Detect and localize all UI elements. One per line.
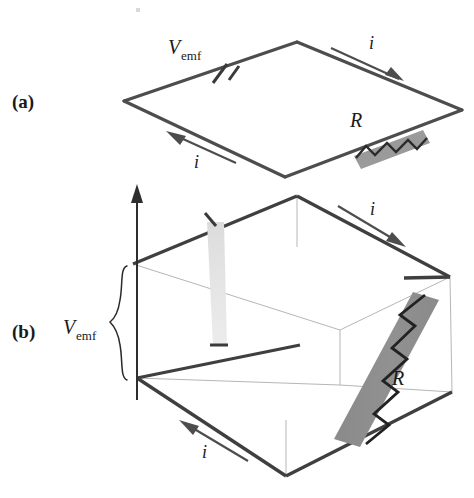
panel-b-label: (b) [12, 321, 35, 343]
box-front-wires [137, 345, 452, 476]
axis-arrow-head [131, 184, 143, 203]
figure-root: (a) V emf [0, 0, 474, 498]
emf-label-subscript: emf [76, 328, 97, 343]
emf-battery-symbol-a [213, 64, 239, 83]
current-label: i [369, 33, 374, 53]
hidden-edge-right-vertical [450, 277, 452, 392]
front-edge-lower-left [137, 378, 286, 476]
battery-short-plate [229, 66, 239, 80]
box-top-face [133, 196, 450, 277]
paper-speck [136, 8, 140, 12]
loop-edge-upper-left [124, 42, 297, 101]
loop-edge-lower-right [285, 110, 462, 177]
current-arrow-a-top: i [331, 33, 404, 81]
hidden-edge-back-left-bottom [137, 378, 340, 385]
emf-brace-b: V emf [63, 266, 127, 380]
resistor-label: R [391, 367, 404, 389]
current-label: i [194, 152, 199, 172]
emf-label-a: V emf [168, 36, 202, 63]
emf-label-subscript: emf [181, 48, 202, 63]
panel-a: (a) V emf [12, 8, 462, 177]
top-edge-right-overlay [404, 277, 450, 278]
circuit-diagram-svg: (a) V emf [0, 0, 474, 498]
resistor-b: R [334, 292, 439, 447]
loop-edge-lower-left [124, 101, 285, 177]
hidden-edge-back-left-top [133, 264, 340, 330]
emf-potential-band [207, 222, 227, 346]
front-edge-emf-wire [137, 345, 300, 378]
panel-a-label: (a) [12, 91, 34, 113]
resistor-label: R [349, 109, 362, 131]
panel-b: (b) [12, 184, 452, 476]
circuit-loop-a [124, 42, 462, 177]
potential-axis-b [131, 184, 143, 400]
current-arrow-head [166, 131, 186, 145]
current-arrow-b-bottom: i [179, 420, 248, 462]
current-label: i [370, 199, 375, 219]
current-arrow-head [179, 420, 199, 435]
loop-edge-upper-right [297, 42, 462, 110]
brace [110, 266, 127, 380]
current-label: i [202, 442, 207, 462]
